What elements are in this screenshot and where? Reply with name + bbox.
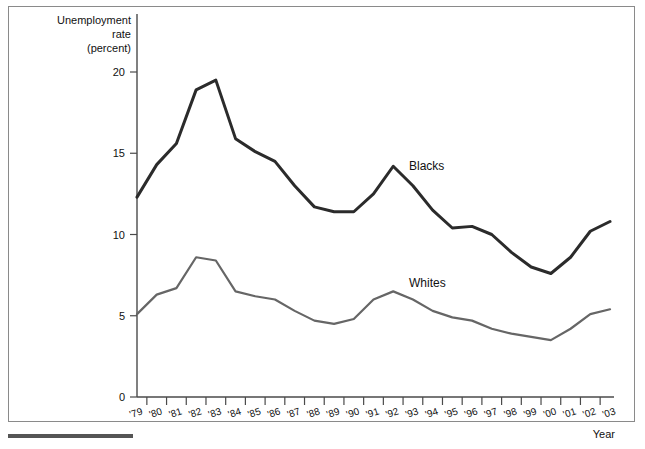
line-chart: Unemployment rate (percent) 05101520 '79… [0, 0, 645, 449]
x-tick-label: '03 [601, 405, 617, 420]
x-tick-label: '94 [424, 405, 440, 420]
x-tick-label: '02 [581, 405, 597, 420]
x-tick-label: '88 [305, 405, 321, 420]
series-label-whites: Whites [409, 276, 446, 290]
x-axis-tick-labels: '79'80'81'82'83'84'85'86'87'88'89'90'91'… [128, 405, 617, 420]
x-tick-label: '83 [207, 405, 223, 420]
y-tick-label: 10 [113, 229, 125, 241]
y-tick-label: 5 [119, 310, 125, 322]
series-label-blacks: Blacks [409, 159, 444, 173]
x-tick-label: '85 [246, 405, 262, 420]
x-tick-label: '87 [286, 405, 302, 420]
x-tick-label: '84 [227, 405, 243, 420]
x-tick-label: '98 [502, 405, 518, 420]
y-tick-label: 0 [119, 391, 125, 403]
x-tick-label: '91 [365, 405, 381, 420]
x-tick-label: '86 [266, 405, 282, 420]
x-tick-label: '00 [542, 405, 558, 420]
x-tick-label: '82 [187, 405, 203, 420]
y-tick-label: 20 [113, 66, 125, 78]
x-axis-title: Year [593, 428, 616, 440]
x-tick-label: '81 [167, 405, 183, 420]
x-tick-label: '93 [404, 405, 420, 420]
x-tick-label: '01 [562, 405, 578, 420]
y-tick-label: 15 [113, 147, 125, 159]
x-tick-label: '97 [483, 405, 499, 420]
x-tick-label: '92 [384, 405, 400, 420]
x-tick-label: '80 [148, 405, 164, 420]
x-tick-label: '79 [128, 405, 144, 420]
y-axis-ticks: 05101520 [113, 66, 137, 403]
series-line-blacks [137, 80, 610, 273]
y-axis-title-line3: (percent) [87, 42, 131, 54]
figure-container: Unemployment rate (percent) 05101520 '79… [0, 0, 645, 449]
series-lines [137, 80, 610, 340]
x-tick-label: '99 [522, 405, 538, 420]
x-tick-label: '89 [325, 405, 341, 420]
y-axis-title-line2: rate [112, 28, 131, 40]
x-axis-ticks [147, 397, 600, 405]
x-tick-label: '95 [443, 405, 459, 420]
x-tick-label: '90 [345, 405, 361, 420]
y-axis-title-line1: Unemployment [57, 14, 131, 26]
x-tick-label: '96 [463, 405, 479, 420]
y-axis-title: Unemployment rate (percent) [57, 14, 131, 54]
